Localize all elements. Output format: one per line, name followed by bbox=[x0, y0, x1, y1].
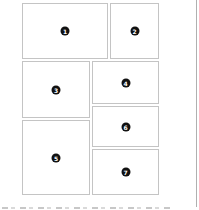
clipped-caption-text bbox=[2, 206, 172, 210]
panel-1: 1 bbox=[22, 3, 108, 59]
panel-number-badge: 6 bbox=[121, 122, 130, 131]
panel-number-badge: 1 bbox=[61, 27, 70, 36]
panel-6: 6 bbox=[92, 106, 159, 147]
panel-number-badge: 3 bbox=[52, 85, 61, 94]
page-edge-divider bbox=[196, 0, 197, 207]
panel-number-badge: 7 bbox=[121, 168, 130, 177]
panel-3: 3 bbox=[22, 61, 90, 118]
panel-7: 7 bbox=[92, 149, 159, 195]
panel-number-badge: 4 bbox=[121, 78, 130, 87]
panel-4: 4 bbox=[92, 61, 159, 104]
panel-number-badge: 2 bbox=[130, 27, 139, 36]
panel-5: 5 bbox=[22, 120, 90, 195]
panel-2: 2 bbox=[110, 3, 159, 59]
panel-number-badge: 5 bbox=[52, 153, 61, 162]
